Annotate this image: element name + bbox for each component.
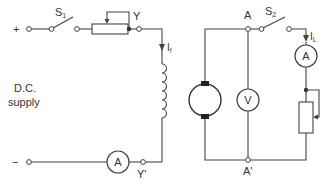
wire bbox=[291, 29, 306, 40]
wire bbox=[205, 118, 246, 160]
brush-bottom bbox=[201, 114, 209, 119]
svg-text:IL: IL bbox=[310, 31, 317, 43]
field-circuit: + S1 Y If bbox=[8, 6, 172, 180]
terminal-y-prime bbox=[141, 160, 146, 165]
node-a-prime-label: A' bbox=[243, 165, 252, 177]
switch-s1-label: S bbox=[55, 6, 62, 18]
node-y-label: Y bbox=[133, 10, 141, 22]
switch-s1-pivot bbox=[49, 27, 54, 32]
armature-circle bbox=[189, 84, 221, 116]
node-y-prime-label: Y' bbox=[137, 168, 146, 180]
terminal-y bbox=[137, 27, 142, 32]
minus-terminal bbox=[27, 160, 32, 165]
coil-turns bbox=[162, 64, 167, 118]
plus-terminal bbox=[27, 27, 32, 32]
brush-top bbox=[201, 81, 209, 86]
field-current-arrow-icon bbox=[159, 44, 165, 51]
wiper-arrow-icon bbox=[105, 19, 110, 24]
load-ammeter: A bbox=[295, 45, 317, 67]
circuit-diagram: + S1 Y If bbox=[0, 0, 326, 188]
terminal-a-prime bbox=[246, 158, 251, 163]
switch-s2-subscript: 2 bbox=[272, 11, 276, 18]
voltmeter-label: V bbox=[244, 94, 252, 106]
wire bbox=[205, 29, 246, 82]
field-ammeter-label: A bbox=[114, 156, 122, 168]
minus-label: − bbox=[12, 156, 18, 168]
supply-label-line1: D.C. bbox=[14, 82, 36, 94]
load-current-arrow-icon bbox=[303, 35, 309, 42]
switch-s2-blade bbox=[264, 17, 286, 28]
terminal-a bbox=[246, 27, 251, 32]
field-rheostat bbox=[92, 12, 129, 34]
junction-dot bbox=[127, 27, 131, 31]
dc-machine-armature bbox=[189, 81, 221, 119]
load-current-subscript: L bbox=[313, 36, 317, 43]
switch-s1: S1 bbox=[49, 6, 79, 31]
switch-s2: S2 bbox=[259, 5, 291, 31]
field-winding-coil bbox=[162, 50, 167, 162]
field-rheostat-body bbox=[92, 24, 128, 34]
svg-text:S2: S2 bbox=[265, 5, 276, 18]
wire bbox=[250, 133, 306, 160]
switch-s2-pivot bbox=[259, 27, 264, 32]
wire bbox=[141, 29, 162, 50]
armature-circuit: A S2 IL A A' bbox=[189, 5, 319, 177]
wiper-arrow-icon bbox=[313, 115, 318, 120]
svg-text:If: If bbox=[167, 42, 172, 54]
switch-s1-subscript: 1 bbox=[62, 12, 66, 19]
switch-s1-contact bbox=[75, 27, 80, 32]
load-ammeter-label: A bbox=[302, 50, 310, 62]
supply-label-line2: supply bbox=[8, 96, 40, 108]
switch-s2-contact bbox=[287, 27, 292, 32]
load-rheostat bbox=[299, 90, 319, 133]
field-current-subscript: f bbox=[170, 47, 172, 54]
node-a-label: A bbox=[244, 9, 252, 21]
load-rheostat-body bbox=[299, 102, 313, 133]
field-ammeter: A bbox=[107, 151, 129, 173]
plus-label: + bbox=[13, 23, 19, 35]
voltmeter: V bbox=[237, 89, 259, 111]
switch-s2-label: S bbox=[265, 5, 272, 17]
svg-text:S1: S1 bbox=[55, 6, 66, 19]
